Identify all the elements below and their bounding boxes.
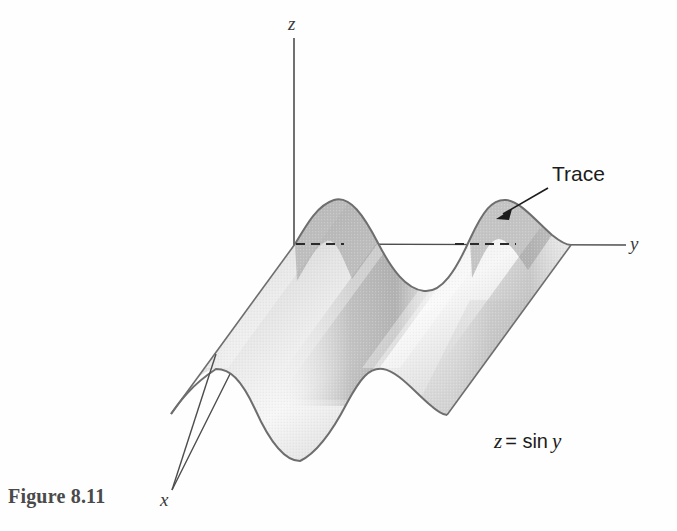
y-axis-label: y: [630, 234, 638, 253]
equation-z-var: z: [494, 429, 502, 453]
surface-plot-svg: [0, 0, 677, 531]
figure-container: z y x Trace z= siny Figure 8.11: [0, 0, 677, 531]
x-axis-front-segment: [172, 354, 216, 490]
equation-operator: = sin: [505, 430, 548, 452]
sine-cylinder-surface: [150, 180, 620, 500]
z-axis-label: z: [288, 14, 295, 33]
x-axis-label: x: [160, 490, 168, 509]
figure-caption: Figure 8.11: [8, 486, 105, 506]
equation-y-var: y: [552, 429, 561, 453]
surface-shading: [150, 180, 620, 500]
equation-label: z= siny: [494, 431, 561, 452]
trace-label: Trace: [552, 163, 605, 184]
